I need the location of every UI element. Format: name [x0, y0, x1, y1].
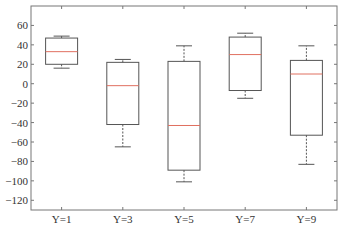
y-tick-label: −120: [5, 194, 28, 206]
x-tick-label: Y=1: [52, 213, 72, 225]
plot-area: [31, 6, 337, 210]
y-tick-label: −40: [11, 117, 29, 129]
y-tick-label: 40: [17, 39, 29, 51]
x-tick-label: Y=3: [113, 213, 133, 225]
y-tick-label: −20: [11, 97, 29, 109]
y-tick-label: 20: [17, 58, 29, 70]
y-tick-label: −100: [5, 175, 28, 187]
plot-frame: [31, 6, 337, 210]
y-tick-label: −80: [11, 155, 29, 167]
y-tick-label: −60: [11, 136, 29, 148]
box-plot-chart: 6040200−20−40−60−80−100−120 Y=1Y=3Y=5Y=7…: [0, 0, 346, 235]
y-tick-label: 60: [17, 19, 29, 31]
y-tick-label: 0: [23, 78, 29, 90]
x-tick-label: Y=7: [235, 213, 255, 225]
x-tick-label: Y=5: [174, 213, 194, 225]
x-tick-label: Y=9: [297, 213, 317, 225]
